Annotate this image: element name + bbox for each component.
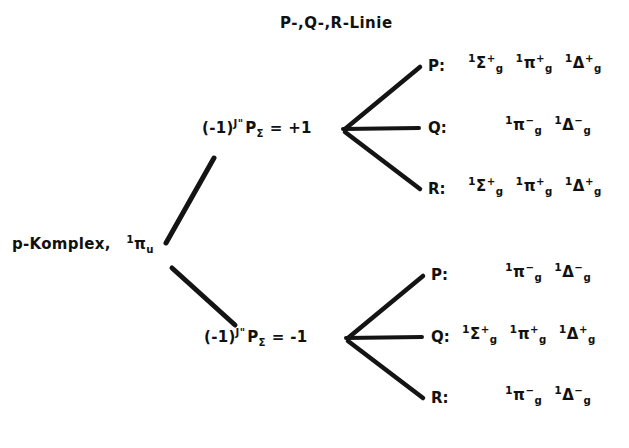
branch-letter-p-lower: P: <box>431 266 448 284</box>
term-symmetry-sub: g <box>588 334 596 345</box>
term-greek-letter: π <box>518 325 530 343</box>
term-symmetry-sub: g <box>594 186 602 197</box>
root-label: p-Komplex, 1πu <box>12 233 154 255</box>
branch-letter-r-upper: R: <box>428 180 446 198</box>
connector-root-to-minus <box>172 268 235 325</box>
term-symbol: 1Σ+g <box>462 323 498 345</box>
root-sub: u <box>146 244 154 255</box>
node-minus-operator: P <box>247 328 258 346</box>
branch-letter-r-lower: R: <box>431 389 449 407</box>
term-symbol: 1Σ+g <box>468 52 504 74</box>
connector-plus-to-p <box>345 67 420 129</box>
node-minus-label: (-1)J"PΣ= -1 <box>204 327 308 348</box>
root-term: 1πu <box>126 235 154 253</box>
node-plus-operator: P <box>245 119 256 137</box>
node-plus-label: (-1)J"PΣ= +1 <box>202 118 312 139</box>
connector-plus-to-q <box>343 128 419 129</box>
term-multiplicity: 1 <box>468 52 476 65</box>
term-multiplicity: 1 <box>505 261 513 274</box>
term-greek-letter: Δ <box>573 177 585 195</box>
term-symbol: 1Δ+g <box>559 323 596 345</box>
term-symbol: 1π+g <box>510 323 547 345</box>
term-multiplicity: 1 <box>462 323 470 336</box>
term-greek-letter: Σ <box>476 54 487 72</box>
term-greek-letter: Σ <box>470 325 481 343</box>
term-greek-letter: π <box>513 116 525 134</box>
node-plus-prefix: (-1) <box>202 119 234 137</box>
term-symbol: 1Σ+g <box>468 175 504 197</box>
term-symbol: 1π−g <box>505 384 542 406</box>
term-greek-letter: π <box>513 386 525 404</box>
connector-minus-to-p <box>348 276 423 338</box>
term-symmetry-sub: g <box>496 186 504 197</box>
term-symbol: 1Δ+g <box>565 52 602 74</box>
node-minus-prefix: (-1) <box>204 328 236 346</box>
connector-minus-to-r <box>348 341 423 398</box>
terms-r-lower: 1π−g1Δ−g <box>505 384 591 406</box>
term-parity-sup: + <box>579 324 588 335</box>
terms-p-upper: 1Σ+g1π+g1Δ+g <box>468 52 602 74</box>
root-label-text: p-Komplex, <box>12 235 111 253</box>
terms-p-lower: 1π−g1Δ−g <box>505 261 591 283</box>
node-plus-exponent: J" <box>234 118 244 129</box>
term-symbol: 1Δ−g <box>554 114 591 136</box>
term-greek-letter: π <box>524 54 536 72</box>
root-symbol: π <box>134 235 146 253</box>
branch-letter-p-upper: P: <box>428 57 445 75</box>
term-symmetry-sub: g <box>583 395 591 406</box>
term-parity-sup: + <box>530 324 539 335</box>
term-greek-letter: π <box>513 263 525 281</box>
term-greek-letter: Δ <box>562 386 574 404</box>
term-symmetry-sub: g <box>534 395 542 406</box>
term-greek-letter: Δ <box>562 116 574 134</box>
branch-letter-q-upper: Q: <box>428 119 447 137</box>
connector-minus-to-q <box>346 337 422 338</box>
term-multiplicity: 1 <box>565 52 573 65</box>
diagram-title: P-,Q-,R-Linie <box>280 14 393 32</box>
term-symmetry-sub: g <box>496 63 504 74</box>
term-parity-sup: + <box>585 53 594 64</box>
term-symbol: 1π+g <box>516 52 553 74</box>
term-multiplicity: 1 <box>505 384 513 397</box>
term-parity-sup: + <box>487 176 496 187</box>
terms-q-lower: 1Σ+g1π+g1Δ+g <box>462 323 596 345</box>
terms-q-upper: 1π−g1Δ−g <box>505 114 591 136</box>
term-symbol: 1Δ−g <box>554 384 591 406</box>
node-minus-equals: = -1 <box>272 328 308 346</box>
term-symmetry-sub: g <box>583 272 591 283</box>
term-parity-sup: + <box>487 53 496 64</box>
term-symbol: 1π−g <box>505 114 542 136</box>
diagram-canvas: P-,Q-,R-Linie p-Komplex, 1πu (-1)J"PΣ= +… <box>0 0 629 448</box>
term-greek-letter: Δ <box>573 54 585 72</box>
term-symmetry-sub: g <box>583 125 591 136</box>
term-symmetry-sub: g <box>594 63 602 74</box>
term-multiplicity: 1 <box>516 52 524 65</box>
term-symbol: 1Δ+g <box>565 175 602 197</box>
term-multiplicity: 1 <box>565 175 573 188</box>
term-symmetry-sub: g <box>534 272 542 283</box>
term-symbol: 1Δ−g <box>554 261 591 283</box>
term-symmetry-sub: g <box>545 186 553 197</box>
node-minus-exponent: J" <box>236 327 246 338</box>
term-parity-sup: + <box>536 176 545 187</box>
term-parity-sup: + <box>585 176 594 187</box>
term-multiplicity: 1 <box>559 323 567 336</box>
node-plus-equals: = +1 <box>270 119 312 137</box>
term-parity-sup: + <box>481 324 490 335</box>
branch-letter-q-lower: Q: <box>431 328 450 346</box>
term-symbol: 1π+g <box>516 175 553 197</box>
node-plus-operator-sub: Σ <box>257 128 264 139</box>
term-greek-letter: Σ <box>476 177 487 195</box>
term-greek-letter: Δ <box>562 263 574 281</box>
term-parity-sup: + <box>536 53 545 64</box>
term-symmetry-sub: g <box>545 63 553 74</box>
term-multiplicity: 1 <box>516 175 524 188</box>
term-multiplicity: 1 <box>468 175 476 188</box>
term-symmetry-sub: g <box>490 334 498 345</box>
root-presup: 1 <box>126 233 134 246</box>
term-greek-letter: π <box>524 177 536 195</box>
term-symbol: 1π−g <box>505 261 542 283</box>
connector-root-to-plus <box>166 158 214 243</box>
term-symmetry-sub: g <box>539 334 547 345</box>
connector-plus-to-r <box>345 132 420 189</box>
